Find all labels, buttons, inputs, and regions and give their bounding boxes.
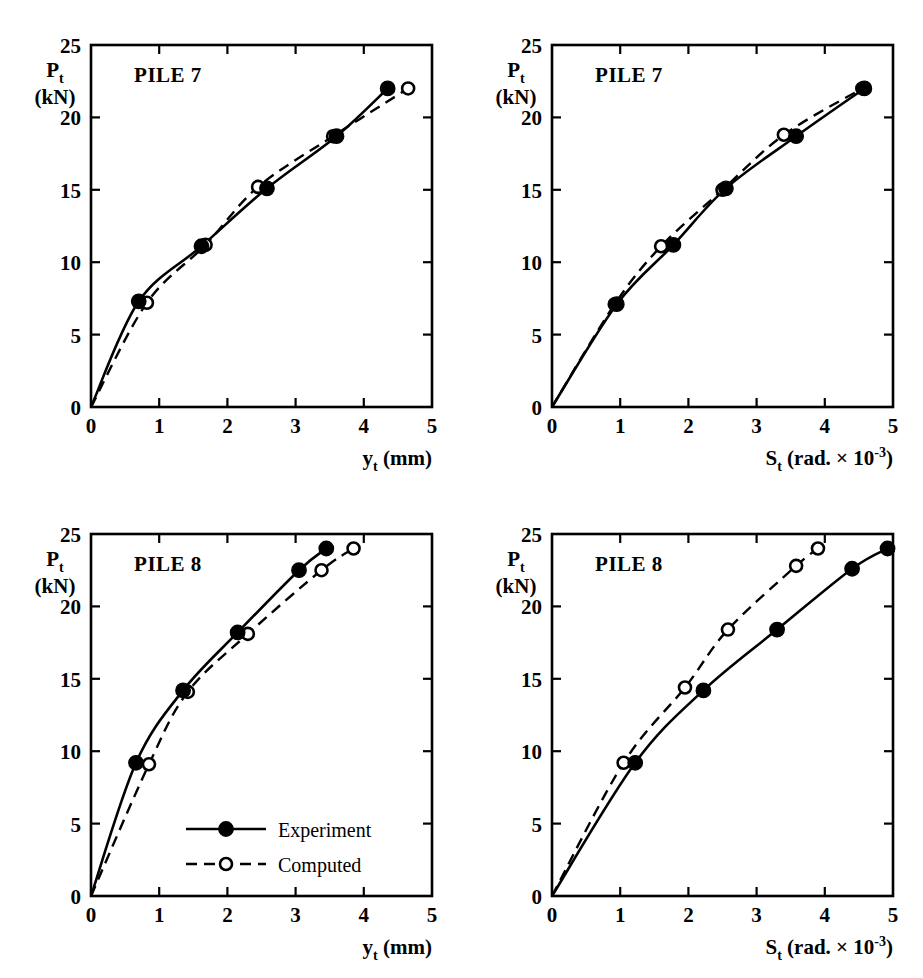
- x-tick-label: 5: [888, 903, 899, 927]
- data-point-experiment: [610, 297, 624, 311]
- y-tick-label: 20: [521, 595, 542, 619]
- series-line-experiment: [552, 548, 888, 896]
- x-tick-label: 0: [86, 414, 97, 438]
- data-point-experiment: [696, 683, 710, 697]
- data-point-experiment: [230, 625, 244, 639]
- chart-panel-pile7-rotation: 0123450510152025PILE 7Pt(kN)St (rad. × 1…: [461, 0, 923, 489]
- y-axis-unit: (kN): [496, 574, 537, 598]
- y-tick-label: 10: [521, 251, 542, 275]
- y-tick-label: 15: [521, 668, 542, 692]
- x-tick-label: 0: [547, 414, 558, 438]
- plot-area-pile7-rotation: 0123450510152025PILE 7Pt(kN)St (rad. × 1…: [461, 0, 923, 489]
- x-tick-label: 2: [222, 414, 233, 438]
- plot-area-pile8-rotation: 0123450510152025PILE 8Pt(kN)St (rad. × 1…: [461, 489, 923, 978]
- chart-panel-pile8-displacement: 0123450510152025PILE 8Pt(kN)yt (mm)Exper…: [0, 489, 462, 978]
- y-tick-label: 0: [532, 396, 543, 420]
- y-tick-label: 0: [532, 885, 543, 909]
- data-point-experiment: [719, 181, 733, 195]
- y-axis-unit: (kN): [496, 85, 537, 109]
- data-point-experiment: [628, 756, 642, 770]
- legend: ExperimentComputed: [186, 819, 372, 877]
- y-tick-label: 0: [71, 396, 82, 420]
- x-tick-label: 5: [888, 414, 899, 438]
- y-tick-label: 5: [71, 324, 82, 348]
- y-tick-label: 10: [521, 740, 542, 764]
- x-axis-title: St (rad. × 10-3): [766, 934, 894, 963]
- x-tick-label: 1: [615, 903, 626, 927]
- data-point-experiment: [176, 683, 190, 697]
- y-axis-title: Pt: [46, 547, 64, 575]
- x-tick-label: 5: [427, 903, 438, 927]
- panel-title-pile8-displacement: PILE 8: [134, 552, 202, 576]
- legend-label-computed: Computed: [278, 854, 361, 877]
- data-point-experiment: [666, 238, 680, 252]
- y-tick-label: 15: [60, 179, 81, 203]
- y-tick-label: 5: [532, 813, 543, 837]
- x-tick-label: 4: [359, 414, 370, 438]
- x-tick-label: 1: [154, 414, 165, 438]
- y-tick-label: 25: [60, 523, 81, 547]
- y-tick-label: 25: [521, 34, 542, 58]
- panel-title-pile7-displacement: PILE 7: [134, 63, 202, 87]
- y-tick-label: 25: [521, 523, 542, 547]
- axes-frame: [552, 534, 893, 896]
- data-point-experiment: [319, 541, 333, 555]
- data-point-computed: [402, 82, 414, 94]
- chart-panel-pile7-displacement: 0123450510152025PILE 7Pt(kN)yt (mm): [0, 0, 462, 489]
- legend-marker-computed: [220, 858, 232, 870]
- data-point-experiment: [789, 129, 803, 143]
- plot-area-pile7-displacement: 0123450510152025PILE 7Pt(kN)yt (mm): [0, 0, 462, 489]
- series-line-computed: [91, 88, 408, 407]
- x-tick-label: 2: [683, 414, 694, 438]
- plot-area-pile8-displacement: 0123450510152025PILE 8Pt(kN)yt (mm)Exper…: [0, 489, 462, 978]
- x-tick-label: 3: [290, 414, 301, 438]
- x-axis-title: St (rad. × 10-3): [766, 445, 894, 474]
- legend-label-experiment: Experiment: [278, 819, 372, 842]
- chart-panel-pile8-rotation: 0123450510152025PILE 8Pt(kN)St (rad. × 1…: [461, 489, 923, 978]
- y-tick-label: 10: [60, 740, 81, 764]
- y-tick-label: 25: [60, 34, 81, 58]
- y-tick-label: 20: [521, 106, 542, 130]
- x-tick-label: 4: [359, 903, 370, 927]
- data-point-experiment: [770, 622, 784, 636]
- x-tick-label: 3: [290, 903, 301, 927]
- panel-title-pile7-rotation: PILE 7: [595, 63, 663, 87]
- data-point-experiment: [260, 181, 274, 195]
- data-point-computed: [348, 542, 360, 554]
- x-tick-label: 0: [86, 903, 97, 927]
- data-point-computed: [778, 129, 790, 141]
- y-axis-unit: (kN): [35, 574, 76, 598]
- panel-title-pile8-rotation: PILE 8: [595, 552, 663, 576]
- y-tick-label: 20: [60, 106, 81, 130]
- y-tick-label: 5: [532, 324, 543, 348]
- x-tick-label: 2: [222, 903, 233, 927]
- y-axis-title: Pt: [46, 58, 64, 86]
- y-tick-label: 10: [60, 251, 81, 275]
- series-line-experiment: [552, 88, 864, 407]
- x-axis-title: yt (mm): [363, 935, 432, 963]
- series-line-computed: [552, 88, 862, 407]
- axes-frame: [91, 45, 432, 407]
- y-axis-unit: (kN): [35, 85, 76, 109]
- series-line-experiment: [91, 548, 326, 896]
- y-tick-label: 15: [60, 668, 81, 692]
- series-line-computed: [552, 548, 818, 896]
- data-point-computed: [790, 560, 802, 572]
- data-point-experiment: [194, 239, 208, 253]
- x-tick-label: 1: [615, 414, 626, 438]
- data-point-experiment: [132, 294, 146, 308]
- data-point-computed: [143, 758, 155, 770]
- x-tick-label: 1: [154, 903, 165, 927]
- data-point-experiment: [292, 563, 306, 577]
- x-tick-label: 3: [751, 903, 762, 927]
- y-axis-title: Pt: [507, 58, 525, 86]
- x-tick-label: 4: [820, 414, 831, 438]
- data-point-experiment: [129, 756, 143, 770]
- data-point-computed: [679, 681, 691, 693]
- y-tick-label: 5: [71, 813, 82, 837]
- data-point-experiment: [329, 129, 343, 143]
- y-tick-label: 15: [521, 179, 542, 203]
- x-tick-label: 2: [683, 903, 694, 927]
- data-point-experiment: [880, 541, 894, 555]
- four-panel-pile-load-figure: 0123450510152025PILE 7Pt(kN)yt (mm)01234…: [0, 0, 923, 978]
